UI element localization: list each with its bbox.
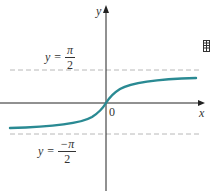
upper-numerator: π <box>65 44 75 58</box>
lower-eq: = <box>47 144 54 159</box>
lower-numerator: −π <box>58 138 76 152</box>
upper-asymptote-label: y = π 2 <box>45 44 75 71</box>
grid-icon <box>203 40 210 52</box>
lower-asymptote-label: y = −π 2 <box>38 138 76 165</box>
lower-var: y <box>38 144 43 159</box>
lower-denominator: 2 <box>64 152 70 165</box>
x-axis-label: x <box>199 107 204 119</box>
upper-eq: = <box>54 50 61 65</box>
upper-var: y <box>45 50 50 65</box>
arctan-graph <box>0 0 210 191</box>
y-axis-arrow <box>103 5 109 13</box>
y-axis-label: y <box>96 5 101 17</box>
origin-label: 0 <box>109 106 115 118</box>
upper-denominator: 2 <box>67 58 73 71</box>
